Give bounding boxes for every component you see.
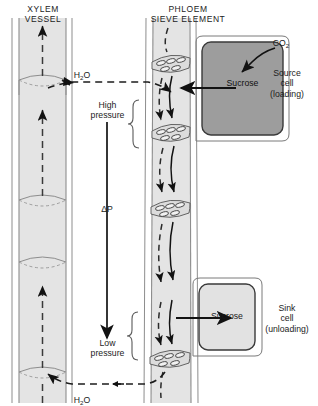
water-bottom-o: O — [83, 395, 90, 405]
co2-label: CO2 — [262, 28, 300, 49]
sucrose-sink-label: Sucrose — [200, 311, 254, 321]
co2-subscript: 2 — [286, 42, 289, 49]
water-bottom-label: H2O — [62, 385, 102, 406]
water-top-o: O — [83, 70, 90, 80]
phloem-heading: PHLOEM SIEVE ELEMENT — [133, 4, 243, 24]
sink-cell-label: Sink cell (unloading) — [256, 303, 318, 334]
co2-text: CO — [273, 38, 286, 48]
delta-p-label: ΔP — [88, 204, 126, 214]
water-top-label: H2O — [62, 60, 102, 81]
low-pressure-label: Low pressure — [79, 338, 136, 359]
high-pressure-label: High pressure — [79, 100, 136, 121]
xylem-heading: XYLEM VESSEL — [8, 4, 78, 24]
phloem-sieve-element — [144, 18, 198, 403]
source-cell-label: Source cell (loading) — [258, 68, 316, 99]
